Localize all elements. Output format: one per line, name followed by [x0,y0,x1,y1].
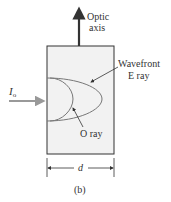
incident-intensity-label: Io [8,85,17,99]
figure-caption: (b) [74,184,86,196]
e-ray-label: E ray [128,70,149,81]
birefringence-diagram: Optic axis Io Wavefront E ray O ray d (b… [0,0,171,202]
wavefront-label: Wavefront [118,58,160,69]
dimension-label: d [78,162,84,173]
o-ray-label: O ray [80,128,103,139]
optic-axis-label-2: axis [89,22,105,33]
optic-axis-label: Optic [87,11,110,22]
